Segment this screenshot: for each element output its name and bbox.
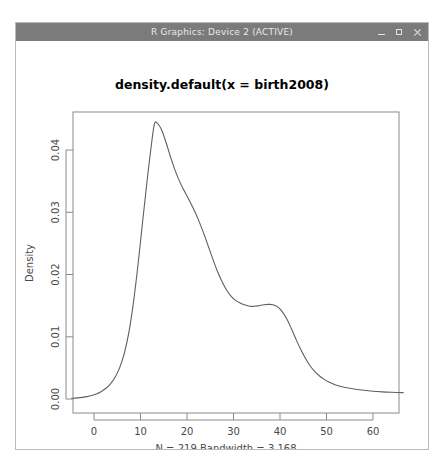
plot-frame	[73, 112, 399, 413]
window-titlebar[interactable]: R Graphics: Device 2 (ACTIVE)	[16, 23, 428, 41]
x-tick-label-0: 0	[91, 426, 97, 437]
plot-title: density.default(x = birth2008)	[115, 77, 329, 92]
x-axis-label: N = 219 Bandwidth = 3.168	[155, 443, 296, 449]
y-tick-label-3: 0.03	[50, 201, 61, 223]
x-tick-label-5: 50	[320, 426, 333, 437]
maximize-icon[interactable]	[395, 28, 404, 37]
x-tick-label-3: 30	[227, 426, 240, 437]
y-tick-marks	[66, 150, 73, 399]
window-controls	[377, 23, 422, 41]
r-graphics-window: R Graphics: Device 2 (ACTIVE) density.de…	[15, 22, 429, 450]
y-tick-label-4: 0.04	[50, 139, 61, 161]
y-axis: 0.00 0.01 0.02 0.03 0.04 Density	[24, 139, 73, 410]
x-tick-label-4: 40	[274, 426, 287, 437]
y-axis-label: Density	[24, 244, 35, 282]
x-tick-label-6: 60	[367, 426, 380, 437]
density-plot-svg: density.default(x = birth2008) 0.00 0.01	[16, 41, 428, 449]
window-title: R Graphics: Device 2 (ACTIVE)	[151, 27, 293, 37]
x-tick-label-2: 20	[181, 426, 194, 437]
x-axis: 0 10 20 30 40 50 60 N = 219 Bandwidth = …	[91, 413, 380, 449]
screen: R Graphics: Device 2 (ACTIVE) density.de…	[0, 0, 444, 475]
y-tick-label-2: 0.02	[50, 263, 61, 285]
x-tick-marks	[94, 413, 373, 420]
y-tick-label-1: 0.01	[50, 326, 61, 348]
close-icon[interactable]	[413, 28, 422, 37]
minimize-icon[interactable]	[377, 28, 386, 37]
plot-canvas: density.default(x = birth2008) 0.00 0.01	[16, 41, 428, 449]
x-tick-label-1: 10	[134, 426, 147, 437]
y-tick-label-0: 0.00	[50, 388, 61, 410]
density-curve	[72, 122, 404, 398]
